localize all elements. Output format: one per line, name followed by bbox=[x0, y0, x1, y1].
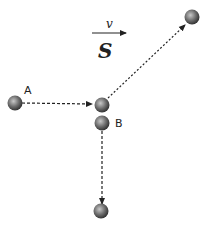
ball-a-label: A bbox=[24, 84, 32, 97]
diagram-canvas: v S A B bbox=[0, 0, 210, 228]
outgoing-path-a bbox=[108, 25, 185, 98]
incoming-path-a bbox=[22, 103, 92, 104]
ball-b-label: B bbox=[115, 117, 123, 130]
collision-diagram: v S A B bbox=[0, 0, 210, 228]
ball-a-collision bbox=[95, 98, 110, 113]
frame-label: S bbox=[98, 39, 112, 63]
ball-a-final bbox=[185, 10, 200, 25]
velocity-label: v bbox=[106, 17, 113, 31]
ball-b-initial bbox=[95, 116, 110, 131]
ball-a-initial bbox=[8, 96, 23, 111]
ball-b-final bbox=[94, 204, 109, 219]
